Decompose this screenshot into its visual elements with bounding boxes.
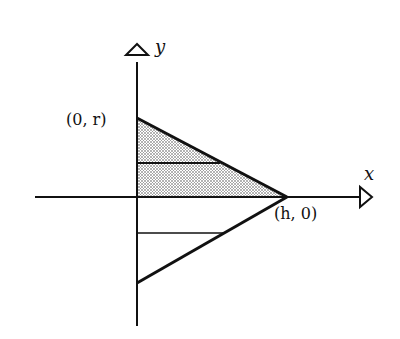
- y-axis-label: y: [155, 36, 165, 57]
- x-axis-arrow-icon: [360, 187, 372, 207]
- right-vertex-label: (h, 0): [274, 204, 317, 223]
- x-axis-label: x: [364, 163, 374, 184]
- lower-hypotenuse: [137, 197, 287, 283]
- top-vertex-label: (0, r): [66, 110, 106, 129]
- diagram-canvas: y x (0, r) (h, 0): [0, 0, 400, 339]
- y-axis-arrow-icon: [126, 44, 148, 55]
